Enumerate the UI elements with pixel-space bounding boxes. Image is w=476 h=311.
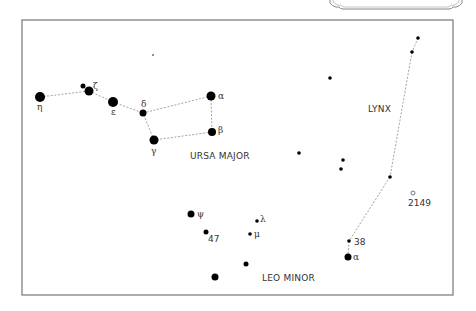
star-field-d	[339, 167, 343, 171]
star-field-1	[152, 54, 154, 56]
star-chart: ηζεδγαβ38α2149ψ47λμ URSA MAJORLYNXLEO MI…	[0, 0, 476, 311]
star-label: 38	[354, 237, 366, 247]
star-label: 47	[208, 234, 219, 244]
star-lmi-big	[212, 274, 219, 281]
star-field-c	[341, 158, 345, 162]
star-label: γ	[151, 146, 156, 156]
star-label: η	[37, 102, 42, 112]
star-lyn-alpha	[345, 254, 352, 261]
star-label: μ	[254, 229, 260, 239]
star-lyn-2	[410, 50, 414, 54]
star-lyn-1	[416, 36, 420, 40]
star-lmi-lambda	[255, 219, 259, 223]
star-label: λ	[260, 214, 266, 224]
star-label: ζ	[93, 81, 98, 91]
constellation-name: URSA MAJOR	[190, 151, 250, 161]
star-uma-gamma	[150, 136, 159, 145]
star-label: α	[218, 91, 224, 101]
constellation-name: LEO MINOR	[262, 273, 315, 283]
star-label: δ	[141, 99, 146, 109]
star-lyn-3	[388, 175, 392, 179]
star-uma-alpha	[207, 92, 216, 101]
star-uma-delta	[140, 110, 147, 117]
star-lyn-field-a	[328, 76, 332, 80]
star-label: ψ	[197, 209, 204, 219]
cartouche-frame	[330, 0, 462, 9]
star-uma-beta	[208, 128, 216, 136]
star-label: α	[353, 252, 359, 262]
star-field-b	[297, 151, 301, 155]
star-uma-eta	[35, 92, 45, 102]
star-lmi-46	[244, 262, 249, 267]
star-lmi-mu	[248, 232, 252, 236]
star-label: ε	[111, 107, 116, 117]
star-lyn-38	[347, 239, 351, 243]
star-uma-80	[81, 84, 86, 89]
star-uma-epsilon	[108, 97, 118, 107]
star-label: 2149	[408, 198, 431, 208]
star-ngc-2149	[411, 191, 415, 195]
star-lmi-psi	[188, 211, 195, 218]
star-label: β	[218, 125, 223, 135]
constellation-name: LYNX	[368, 104, 391, 114]
